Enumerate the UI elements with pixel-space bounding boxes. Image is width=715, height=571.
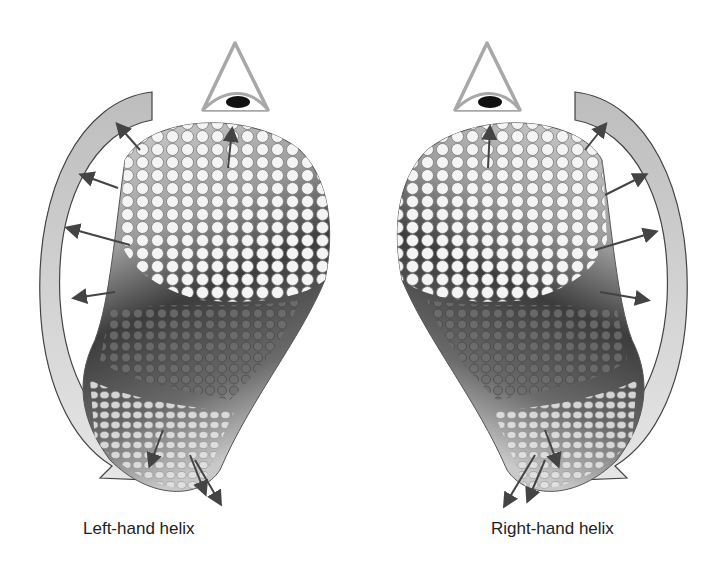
right-helix-caption: Right-hand helix <box>491 519 614 539</box>
rod-bundle-right <box>397 123 644 492</box>
left-helix-panel <box>40 43 330 503</box>
eye-icon <box>203 43 268 110</box>
rod-bundle-left <box>83 123 330 492</box>
helix-figure <box>0 0 715 571</box>
eye-icon <box>455 43 520 110</box>
right-helix-panel <box>397 43 687 505</box>
left-helix-caption: Left-hand helix <box>83 519 195 539</box>
